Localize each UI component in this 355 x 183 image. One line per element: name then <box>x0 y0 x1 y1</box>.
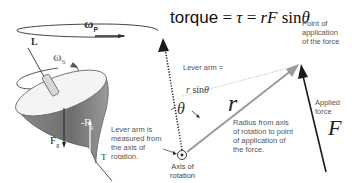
axis-of-rotation-symbol <box>178 151 187 160</box>
force-label: F <box>328 117 341 139</box>
lever-arm-title: Lever arm = <box>183 63 223 72</box>
normal-force-label: -Fg <box>81 109 93 132</box>
axis-of-rotation-label: Axis of rotation <box>170 162 195 180</box>
point-of-application-label: Point of application of the force <box>302 19 340 46</box>
lever-arm-formula: r sinθ <box>186 73 209 95</box>
lever-arm-description: Lever arm is measured from the axis of r… <box>111 125 161 161</box>
gravity-force-label: Fg <box>50 127 59 150</box>
spinning-top <box>10 61 112 181</box>
equals-sign: = <box>218 8 236 27</box>
equals-sign: = <box>242 8 260 27</box>
equation-word: torque <box>170 8 218 27</box>
sin-term: sin <box>277 8 301 27</box>
theta-marks <box>171 107 200 118</box>
radius-description: Radius from axis of rotation to point of… <box>233 118 293 154</box>
applied-force-label: Applied force <box>315 98 340 116</box>
angular-momentum-label: L <box>31 37 38 46</box>
torque-vector <box>158 38 182 150</box>
tip-label: T <box>101 153 107 162</box>
torque-diagram: torque = τ = rF sinθ ωP L ωS Fg -Fg T Le… <box>0 0 355 183</box>
theta-label: θ <box>177 101 185 117</box>
omega-s-label: ωS <box>53 44 66 67</box>
lever-arm-pointer <box>163 149 177 155</box>
rF-term: rF <box>260 8 277 27</box>
omega-p-label: ωP <box>84 10 98 34</box>
torque-equation: torque = τ = rF sinθ <box>170 8 310 28</box>
force-vector <box>298 64 326 172</box>
radius-label: r <box>228 91 237 115</box>
